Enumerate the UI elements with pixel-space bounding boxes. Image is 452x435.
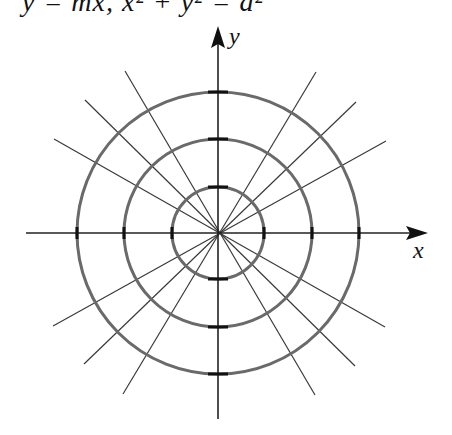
polar-diagram: x y [0,0,452,435]
x-axis-label: x [412,237,424,263]
y-axis-label: y [227,23,240,49]
axes [26,40,412,419]
